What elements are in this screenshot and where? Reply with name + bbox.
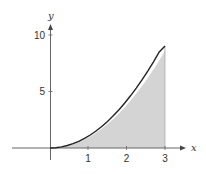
x-tick-label: 3 <box>162 153 168 164</box>
x-axis-label: x <box>191 142 197 153</box>
chart: 1 2 3 5 10 x y <box>0 0 206 174</box>
x-tick-label: 1 <box>85 153 91 164</box>
y-axis-arrow-icon <box>48 24 53 30</box>
y-tick-label: 10 <box>34 30 46 41</box>
x-tick-label: 2 <box>124 153 130 164</box>
shaded-area <box>50 46 165 148</box>
y-axis-label: y <box>47 10 54 21</box>
x-axis-arrow-icon <box>180 146 186 151</box>
y-tick-label: 5 <box>39 86 45 97</box>
